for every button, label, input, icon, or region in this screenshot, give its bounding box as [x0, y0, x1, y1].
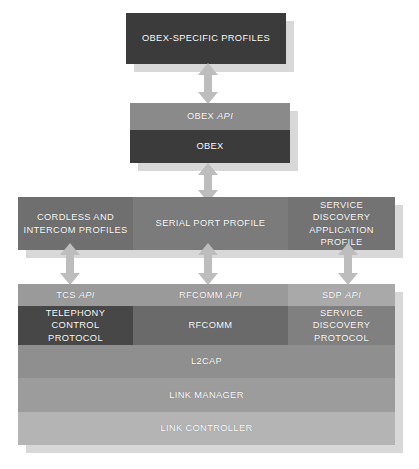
arrow-cordless-profiles-to-tcs-api [58, 243, 82, 285]
block-link-manager: LINK MANAGER [18, 378, 395, 412]
block-rfcomm-api: RFCOMM API [133, 284, 288, 306]
block-label-telephony-control-protocol: TELEPHONY CONTROLPROTOCOL [18, 307, 133, 345]
sdp-api-text: SDP [322, 290, 342, 300]
block-label-l2cap: L2CAP [187, 355, 226, 368]
block-label-cordless-and-intercom-profiles: CORDLESS ANDINTERCOM PROFILES [19, 211, 131, 236]
block-label-service-discovery-application-profile: SERVICE DISCOVERYAPPLICATION PROFILE [288, 199, 395, 249]
block-label-obex-api: OBEX API [183, 110, 237, 123]
bluetooth-protocol-stack-diagram: OBEX-SPECIFIC PROFILES OBEX API OBEX COR… [0, 0, 419, 469]
arrow-serial-port-profile-to-rfcomm-api [196, 243, 220, 285]
sdp-api-italic-text: API [345, 290, 361, 300]
tcp-line2: PROTOCOL [48, 333, 103, 343]
arrow-obex-profiles-to-obex-api [196, 63, 220, 104]
arrow-sdap-to-sdp-api [336, 243, 360, 285]
block-obex: OBEX [130, 130, 290, 163]
obex-api-text: OBEX [187, 111, 214, 121]
block-label-link-controller: LINK CONTROLLER [156, 422, 256, 435]
block-label-obex: OBEX [192, 140, 227, 153]
block-obex-specific-profiles: OBEX-SPECIFIC PROFILES [126, 13, 286, 64]
rfcomm-api-italic-text: API [226, 290, 242, 300]
block-l2cap: L2CAP [18, 345, 395, 378]
block-link-controller: LINK CONTROLLER [18, 412, 395, 445]
obex-api-italic-text: API [217, 111, 233, 121]
block-tcs-api: TCS API [18, 284, 133, 306]
block-label-obex-specific-profiles: OBEX-SPECIFIC PROFILES [138, 32, 274, 45]
block-label-serial-port-profile: SERIAL PORT PROFILE [152, 217, 270, 230]
block-sdp-api: SDP API [288, 284, 395, 306]
block-label-link-manager: LINK MANAGER [165, 389, 247, 402]
cordless-profiles-line1: CORDLESS AND [37, 212, 114, 222]
rfcomm-api-text: RFCOMM [179, 290, 223, 300]
block-label-rfcomm: RFCOMM [185, 319, 237, 332]
block-label-sdp-api: SDP API [318, 289, 365, 302]
sdp-line2: PROTOCOL [314, 333, 369, 343]
tcp-line1: TELEPHONY CONTROL [46, 308, 105, 331]
sdap-line1: SERVICE DISCOVERY [313, 200, 371, 223]
cordless-profiles-line2: INTERCOM PROFILES [23, 225, 127, 235]
block-obex-api: OBEX API [130, 103, 290, 130]
block-telephony-control-protocol: TELEPHONY CONTROLPROTOCOL [18, 306, 133, 345]
block-label-rfcomm-api: RFCOMM API [175, 289, 246, 302]
block-label-service-discovery-protocol: SERVICE DISCOVERYPROTOCOL [288, 307, 395, 345]
block-service-discovery-protocol: SERVICE DISCOVERYPROTOCOL [288, 306, 395, 345]
tcs-api-text: TCS [56, 290, 76, 300]
block-rfcomm: RFCOMM [133, 306, 288, 345]
block-label-tcs-api: TCS API [52, 289, 99, 302]
tcs-api-italic-text: API [79, 290, 95, 300]
sdp-line1: SERVICE DISCOVERY [313, 308, 371, 331]
